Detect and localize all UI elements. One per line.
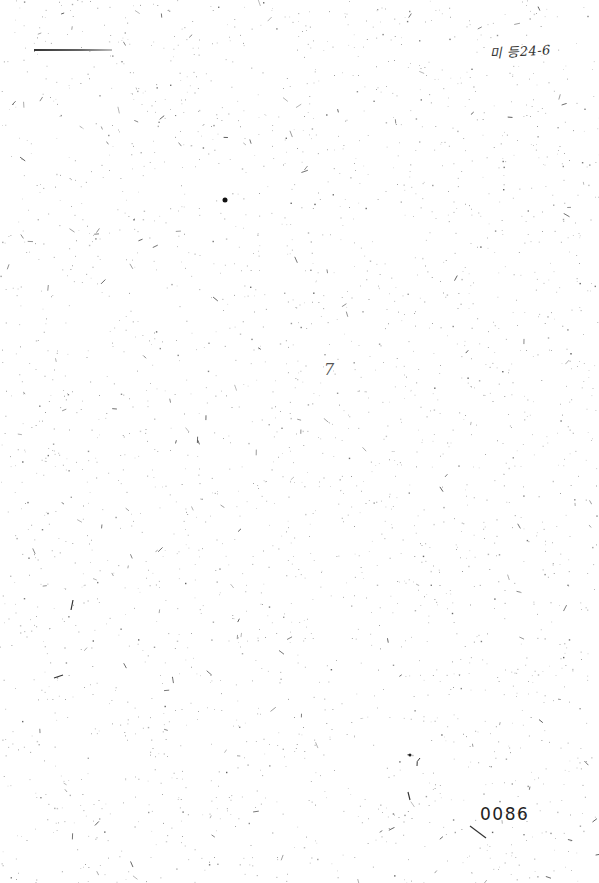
page-number-stamp: 0086: [480, 804, 529, 824]
faint-center-mark: 7: [324, 360, 334, 379]
top-rule-line: [34, 49, 112, 51]
scan-noise: [0, 0, 599, 883]
handwritten-file-label: 미 등24-6: [490, 39, 552, 61]
scanned-page: 미 등24-6 7 0086: [0, 0, 599, 883]
